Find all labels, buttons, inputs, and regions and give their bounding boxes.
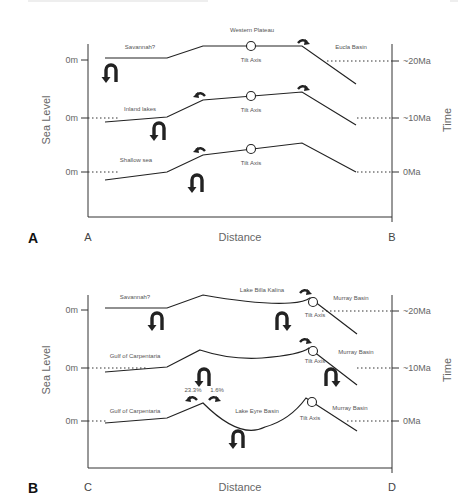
panel-label: A <box>28 230 38 246</box>
profile-label: Murray Basin <box>333 295 368 301</box>
time-tick: ~20Ma <box>403 56 431 66</box>
tilt-axis-marker <box>247 42 256 51</box>
profile-label: Eucla Basin <box>335 44 367 50</box>
clockwise-arrow-icon <box>298 39 310 45</box>
profile-label: Murray Basin <box>338 349 373 355</box>
tilt-axis-label: Tilt Axis <box>241 57 261 63</box>
panel-b: 0m 0m 0m ~20Ma ~10Ma 0Ma Sea Level Time … <box>28 287 453 496</box>
uturn-arrow-icon <box>148 313 163 331</box>
uturn-arrow-icon <box>326 369 341 387</box>
profile-label: Murray Basin <box>332 405 367 411</box>
sea-level-tick: 0m <box>65 416 78 426</box>
geologic-tilt-diagram: 0m 0m 0m ~20Ma ~10Ma 0Ma Sea Level Time … <box>0 0 475 503</box>
tilt-axis-marker <box>309 347 318 356</box>
time-tick: 0Ma <box>403 167 421 177</box>
clockwise-arrow-icon <box>300 338 312 344</box>
counterclockwise-arrow-icon <box>185 396 197 402</box>
panel-a: 0m 0m 0m ~20Ma ~10Ma 0Ma Sea Level Time … <box>28 27 453 246</box>
percentage-label: 23.3% <box>184 387 202 393</box>
uturn-arrow-icon <box>102 65 117 83</box>
panel-label: B <box>28 480 38 496</box>
counterclockwise-arrow-icon <box>193 92 205 98</box>
counterclockwise-arrow-icon <box>193 147 205 153</box>
x-end-label: B <box>388 231 395 243</box>
sea-level-tick: 0m <box>65 55 78 65</box>
profile-label: Inland lakes <box>124 106 156 112</box>
percentage-label: 1.6% <box>210 387 224 393</box>
profile-label: Savannah? <box>120 294 151 300</box>
uturn-arrow-icon <box>188 175 203 193</box>
clockwise-arrow-icon <box>300 289 312 295</box>
x-start-label: A <box>84 231 92 243</box>
time-axis-title: Time <box>441 108 453 132</box>
clockwise-arrow-icon <box>209 396 221 402</box>
sea-level-tick: 0m <box>65 363 78 373</box>
profile-label: Lake Eyre Basin <box>235 408 279 414</box>
time-tick: 0Ma <box>403 416 421 426</box>
x-end-label: D <box>388 481 396 493</box>
time-tick: ~20Ma <box>403 306 431 316</box>
sea-level-tick: 0m <box>65 113 78 123</box>
tilt-axis-label: Tilt Axis <box>241 160 261 166</box>
profile-label: Gulf of Carpentaria <box>110 353 161 359</box>
clockwise-arrow-icon <box>298 85 310 91</box>
tilt-axis-marker <box>247 145 256 154</box>
sea-level-tick: 0m <box>65 167 78 177</box>
uturn-arrow-icon <box>195 369 210 387</box>
tilt-axis-marker <box>308 398 317 407</box>
tilt-axis-marker <box>309 298 318 307</box>
profile-label: Western Plateau <box>230 27 274 33</box>
y-axis-title: Sea Level <box>40 346 52 395</box>
x-axis-title: Distance <box>219 481 262 493</box>
time-tick: ~10Ma <box>403 363 431 373</box>
y-axis-title: Sea Level <box>40 96 52 145</box>
sea-level-tick: 0m <box>65 305 78 315</box>
time-axis-title: Time <box>441 358 453 382</box>
page-header <box>28 0 458 2</box>
profile-label: Lake Billa Kalina <box>240 287 285 293</box>
time-tick: ~10Ma <box>403 113 431 123</box>
x-start-label: C <box>84 481 92 493</box>
tilt-axis-label: Tilt Axis <box>305 312 325 318</box>
uturn-arrow-icon <box>150 123 165 141</box>
tilt-axis-label: Tilt Axis <box>241 107 261 113</box>
tilt-axis-marker <box>247 92 256 101</box>
profile-label: Savannah? <box>125 44 156 50</box>
tilt-axis-label: Tilt Axis <box>305 358 325 364</box>
tilt-axis-label: Tilt Axis <box>300 415 320 421</box>
uturn-arrow-icon <box>229 431 244 449</box>
profile-label: Gulf of Carpentaria <box>110 408 161 414</box>
x-axis-title: Distance <box>219 231 262 243</box>
profile-line <box>105 46 356 84</box>
uturn-arrow-icon <box>277 313 292 331</box>
profile-label: Shallow sea <box>120 157 153 163</box>
